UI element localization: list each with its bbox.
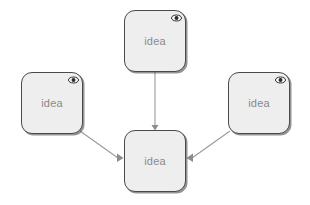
node-label: idea bbox=[248, 98, 270, 109]
node-label: idea bbox=[144, 156, 166, 167]
node-center[interactable]: idea bbox=[124, 130, 186, 192]
edge-right-to-center[interactable] bbox=[187, 131, 231, 162]
node-right[interactable]: idea bbox=[228, 72, 290, 134]
node-label: idea bbox=[144, 36, 166, 47]
edge-top-to-center[interactable] bbox=[152, 72, 159, 131]
eye-icon[interactable] bbox=[171, 14, 182, 22]
eye-icon[interactable] bbox=[68, 76, 79, 84]
node-top[interactable]: idea bbox=[124, 10, 186, 72]
mindmap-canvas[interactable]: idea idea idea idea bbox=[0, 0, 310, 205]
edge-left-to-center[interactable] bbox=[80, 131, 124, 162]
node-label: idea bbox=[41, 98, 63, 109]
node-left[interactable]: idea bbox=[21, 72, 83, 134]
eye-icon[interactable] bbox=[275, 76, 286, 84]
